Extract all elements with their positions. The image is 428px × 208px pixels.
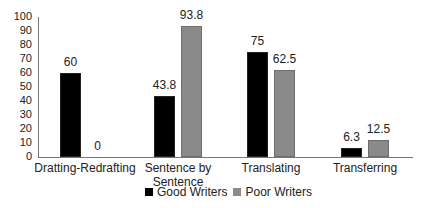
legend-swatch-icon bbox=[145, 188, 153, 196]
y-tick-label: 40 bbox=[2, 95, 32, 106]
legend: Good WritersPoor Writers bbox=[145, 185, 318, 199]
y-tick-label: 30 bbox=[2, 109, 32, 120]
value-label: 60 bbox=[51, 56, 91, 68]
legend-swatch-icon bbox=[233, 188, 241, 196]
y-tick-label: 80 bbox=[2, 39, 32, 50]
x-category-label: Transferring bbox=[310, 161, 420, 175]
value-label: 0 bbox=[78, 140, 118, 152]
y-tick-label: 60 bbox=[2, 67, 32, 78]
y-tick-label: 50 bbox=[2, 81, 32, 92]
value-label: 93.8 bbox=[172, 9, 212, 21]
y-axis-line bbox=[38, 17, 39, 158]
y-tick-label: 100 bbox=[2, 11, 32, 22]
y-tick-label: 70 bbox=[2, 53, 32, 64]
value-label: 75 bbox=[238, 35, 278, 47]
x-axis-line bbox=[38, 157, 413, 158]
legend-item: Good Writers bbox=[145, 185, 227, 199]
y-tick-label: 10 bbox=[2, 137, 32, 148]
y-tick-label: 0 bbox=[2, 151, 32, 162]
poor-writers-bar bbox=[368, 140, 389, 158]
legend-label: Good Writers bbox=[157, 185, 227, 199]
legend-item: Poor Writers bbox=[233, 185, 311, 199]
poor-writers-bar bbox=[181, 26, 202, 157]
value-label: 43.8 bbox=[145, 79, 185, 91]
value-label: 12.5 bbox=[359, 123, 399, 135]
good-writers-bar bbox=[247, 52, 268, 157]
value-label: 62.5 bbox=[265, 53, 305, 65]
poor-writers-bar bbox=[274, 70, 295, 158]
y-tick-label: 90 bbox=[2, 25, 32, 36]
grouped-bar-chart: 0102030405060708090100 6043.8756.3093.86… bbox=[0, 0, 428, 208]
y-tick-label: 20 bbox=[2, 123, 32, 134]
good-writers-bar bbox=[154, 96, 175, 157]
good-writers-bar bbox=[341, 148, 362, 157]
legend-label: Poor Writers bbox=[245, 185, 311, 199]
